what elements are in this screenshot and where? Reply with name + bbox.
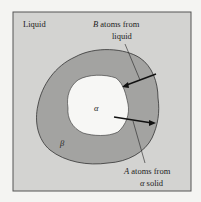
annotation-a-atoms-line2: α solid (140, 178, 164, 188)
label-liquid: Liquid (23, 19, 46, 29)
annotation-b-atoms-line2: liquid (112, 31, 133, 41)
annotation-a-atoms-line1: A atoms from (123, 166, 171, 176)
label-beta: β (59, 138, 65, 148)
annotation-b-atoms-line1: B atoms from (93, 19, 140, 29)
solidification-diagram: Liquid α β B atoms from liquid A atoms f… (0, 0, 201, 202)
label-alpha: α (94, 103, 99, 113)
